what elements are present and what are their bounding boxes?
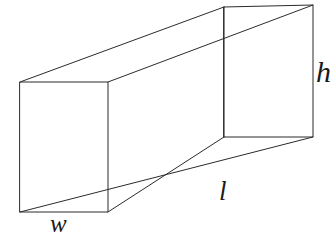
prism-figure: h l w bbox=[0, 0, 334, 237]
prism-drawing bbox=[0, 0, 334, 237]
face-back-right bbox=[224, 5, 313, 137]
height-label: h bbox=[316, 57, 331, 87]
edge-bottom-inner bbox=[108, 137, 224, 212]
edge-top-outer bbox=[20, 7, 224, 82]
length-label: l bbox=[219, 178, 227, 205]
edge-top-inner bbox=[108, 5, 313, 82]
width-label: w bbox=[50, 211, 67, 236]
